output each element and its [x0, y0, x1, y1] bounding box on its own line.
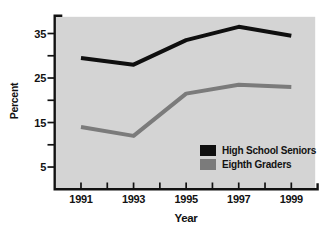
- line-chart-figure: 515253519911993199519971999 Percent Year…: [0, 0, 334, 236]
- y-axis-title: Percent: [8, 83, 20, 119]
- y-tick-label-5: 5: [40, 161, 46, 173]
- eighth-graders-color-swatch: [200, 159, 216, 170]
- y-tick-label-25: 25: [34, 72, 46, 84]
- x-tick-label-1991: 1991: [69, 193, 92, 205]
- x-tick-label-1999: 1999: [280, 193, 303, 205]
- eighth-graders-legend-label: Eighth Graders: [222, 159, 291, 170]
- x-axis-title: Year: [174, 212, 197, 224]
- high-school-seniors-color-swatch: [200, 145, 216, 156]
- y-tick-label-15: 15: [34, 117, 46, 129]
- y-tick-label-35: 35: [34, 28, 46, 40]
- high-school-seniors-legend-label: High School Seniors: [222, 145, 316, 156]
- legend-item-eighth-graders: Eighth Graders: [200, 159, 316, 170]
- x-tick-label-1997: 1997: [227, 193, 250, 205]
- legend: High School Seniors Eighth Graders: [200, 145, 316, 173]
- x-tick-label-1993: 1993: [122, 193, 145, 205]
- plot-canvas: 515253519911993199519971999: [0, 0, 334, 236]
- x-tick-label-1995: 1995: [175, 193, 198, 205]
- legend-item-high-school-seniors: High School Seniors: [200, 145, 316, 156]
